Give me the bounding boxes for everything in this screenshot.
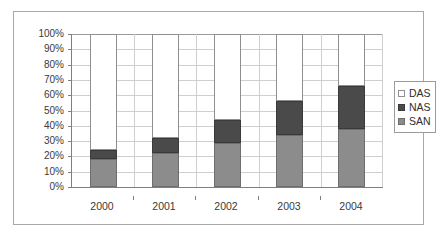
- y-tick-mark-60: [68, 95, 72, 96]
- legend-swatch-das-icon: [398, 90, 405, 97]
- y-tick-mark-90: [68, 49, 72, 50]
- bar-segment-nas-2004[interactable]: [338, 86, 365, 129]
- y-tick-label-40: 40%: [44, 121, 64, 131]
- bar-segment-das-2004[interactable]: [338, 34, 365, 86]
- y-tick-label-30: 30%: [44, 136, 64, 146]
- y-tick-label-80: 80%: [44, 60, 64, 70]
- bar-group-2000[interactable]: [90, 34, 117, 187]
- bar-group-2004[interactable]: [338, 34, 365, 187]
- y-tick-label-0: 0%: [50, 182, 64, 192]
- bar-segment-nas-2001[interactable]: [152, 138, 179, 153]
- legend-label-das: DAS: [409, 88, 431, 99]
- y-tick-label-50: 50%: [44, 106, 64, 116]
- y-tick-label-20: 20%: [44, 151, 64, 161]
- y-tick-mark-0: [68, 187, 72, 188]
- y-axis: 100%90%80%70%60%50%40%30%20%10%0%: [14, 26, 68, 196]
- bar-segment-san-2003[interactable]: [276, 135, 303, 187]
- legend-swatch-san-icon: [398, 118, 405, 125]
- y-tick-label-60: 60%: [44, 90, 64, 100]
- x-tick-mark: [320, 196, 321, 200]
- x-tick-label-2000: 2000: [71, 200, 133, 212]
- category-separator: [259, 34, 260, 187]
- bar-segment-san-2001[interactable]: [152, 153, 179, 187]
- y-tick-label-90: 90%: [44, 44, 64, 54]
- x-tick-mark: [195, 196, 196, 200]
- chart-figure: 100%90%80%70%60%50%40%30%20%10%0% 200020…: [13, 11, 424, 225]
- category-separator: [196, 34, 197, 187]
- y-tick-label-70: 70%: [44, 75, 64, 85]
- bar-segment-nas-2003[interactable]: [276, 101, 303, 135]
- bar-segment-das-2002[interactable]: [214, 34, 241, 120]
- y-tick-mark-100: [68, 34, 72, 35]
- x-tick-label-2004: 2004: [320, 200, 382, 212]
- y-tick-label-100: 100%: [38, 29, 64, 39]
- bar-segment-das-2001[interactable]: [152, 34, 179, 138]
- y-tick-mark-70: [68, 80, 72, 81]
- bar-segment-san-2002[interactable]: [214, 143, 241, 187]
- plot-right-edge: [382, 34, 383, 187]
- plot-area: [71, 34, 383, 188]
- legend-swatch-nas-icon: [398, 104, 405, 111]
- x-tick-label-2003: 2003: [258, 200, 320, 212]
- bar-segment-nas-2000[interactable]: [90, 150, 117, 159]
- bar-group-2001[interactable]: [152, 34, 179, 187]
- bar-segment-san-2000[interactable]: [90, 159, 117, 187]
- x-tick-mark: [258, 196, 259, 200]
- category-separator: [321, 34, 322, 187]
- y-tick-mark-30: [68, 141, 72, 142]
- bar-segment-das-2003[interactable]: [276, 34, 303, 101]
- legend-label-nas: NAS: [409, 102, 431, 113]
- y-tick-mark-10: [68, 172, 72, 173]
- bar-segment-nas-2002[interactable]: [214, 120, 241, 143]
- x-tick-label-2001: 2001: [133, 200, 195, 212]
- bar-segment-san-2004[interactable]: [338, 129, 365, 187]
- legend-item-das[interactable]: DAS: [398, 86, 431, 100]
- legend-item-nas[interactable]: NAS: [398, 100, 431, 114]
- y-tick-mark-50: [68, 111, 72, 112]
- x-axis: 20002001200220032004: [71, 196, 383, 218]
- y-tick-mark-40: [68, 126, 72, 127]
- legend-label-san: SAN: [409, 116, 431, 127]
- x-tick-label-2002: 2002: [195, 200, 257, 212]
- chart-legend: DASNASSAN: [394, 81, 436, 133]
- x-tick-mark: [133, 196, 134, 200]
- bar-group-2003[interactable]: [276, 34, 303, 187]
- category-separator: [134, 34, 135, 187]
- y-tick-mark-20: [68, 156, 72, 157]
- y-tick-label-10: 10%: [44, 167, 64, 177]
- bar-group-2002[interactable]: [214, 34, 241, 187]
- bar-segment-das-2000[interactable]: [90, 34, 117, 150]
- legend-item-san[interactable]: SAN: [398, 114, 431, 128]
- y-tick-mark-80: [68, 65, 72, 66]
